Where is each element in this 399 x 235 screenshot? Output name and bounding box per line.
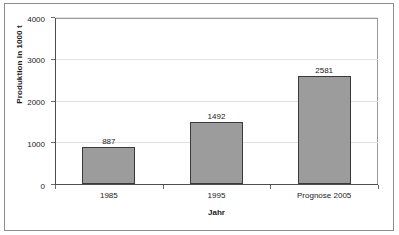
x-category-label: 1995 bbox=[208, 191, 226, 200]
x-category-label: 1985 bbox=[100, 191, 118, 200]
plot-area: 01000200030004000 88714922581 bbox=[55, 18, 378, 185]
y-tick-label: 2000 bbox=[27, 98, 45, 107]
x-axis-title: Jahr bbox=[55, 208, 378, 217]
bar-value-label: 1492 bbox=[208, 112, 226, 121]
x-tick-mark bbox=[270, 185, 271, 189]
gridline bbox=[56, 59, 378, 60]
x-tick-mark bbox=[378, 185, 379, 189]
bar-value-label: 2581 bbox=[315, 66, 333, 75]
x-tick-mark bbox=[163, 185, 164, 189]
y-axis-line bbox=[55, 18, 56, 185]
y-axis-title: Produktion in 1000 t bbox=[15, 0, 24, 130]
x-tick-mark bbox=[55, 185, 56, 189]
bar: 1492 bbox=[190, 122, 243, 184]
y-tick-label: 0 bbox=[41, 181, 45, 190]
bar-value-label: 887 bbox=[102, 137, 115, 146]
bar: 2581 bbox=[298, 76, 351, 184]
gridline bbox=[56, 17, 378, 18]
x-axis-line bbox=[55, 184, 378, 185]
y-tick-label: 4000 bbox=[27, 14, 45, 23]
bar: 887 bbox=[82, 147, 135, 184]
y-tick-label: 3000 bbox=[27, 56, 45, 65]
x-category-label: Prognose 2005 bbox=[297, 191, 351, 200]
y-tick-label: 1000 bbox=[27, 139, 45, 148]
bar-chart-figure: Produktion in 1000 t 01000200030004000 8… bbox=[0, 0, 399, 235]
